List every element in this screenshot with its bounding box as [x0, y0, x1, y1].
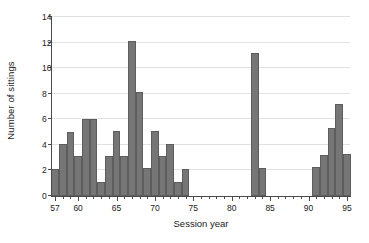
- x-axis-title: Session year: [52, 218, 350, 229]
- x-tick-label: 90: [304, 203, 313, 213]
- histogram-bar: [159, 156, 167, 196]
- y-tick-label: 14: [42, 12, 44, 22]
- histogram-bar: [105, 156, 113, 196]
- histogram-bar: [343, 154, 351, 196]
- histogram-bar: [74, 156, 82, 196]
- x-tick-label: 75: [189, 203, 198, 213]
- plot-area: 02468101214 576065707580859095: [52, 17, 350, 196]
- x-tick-label: 85: [265, 203, 274, 213]
- x-tick-label: 65: [112, 203, 121, 213]
- y-axis-line: [51, 17, 52, 196]
- histogram-bar: [335, 104, 343, 196]
- histogram-bar: [67, 132, 75, 196]
- histogram-bar: [136, 92, 144, 196]
- x-tick-label: 80: [227, 203, 236, 213]
- x-tick-label: 57: [50, 203, 59, 213]
- histogram-bar: [151, 131, 159, 196]
- y-tick-label: 0: [42, 191, 44, 201]
- x-axis-line: [51, 196, 351, 197]
- histogram-bar: [259, 168, 267, 196]
- histogram-bar: [328, 128, 336, 196]
- y-tick-label: 2: [42, 165, 44, 175]
- histogram-bar: [174, 182, 182, 196]
- histogram-bar: [59, 144, 67, 196]
- gridline: [52, 67, 350, 68]
- gridline: [52, 42, 350, 43]
- x-tick-label: 95: [342, 203, 351, 213]
- y-tick-label: 12: [42, 38, 44, 48]
- y-tick-label: 4: [42, 140, 44, 150]
- plot-inner: 02468101214 576065707580859095: [52, 17, 350, 196]
- histogram-bar: [120, 156, 128, 196]
- histogram-bar: [312, 167, 320, 196]
- histogram-bar: [251, 53, 259, 196]
- y-axis-title: Number of sittings: [0, 0, 20, 200]
- histogram-bar: [113, 131, 121, 196]
- histogram-bar: [82, 119, 90, 196]
- gridline: [52, 93, 350, 94]
- histogram-bar: [320, 155, 328, 196]
- histogram-bar: [97, 182, 105, 196]
- x-tick-label: 60: [73, 203, 82, 213]
- histogram-bar: [143, 168, 151, 196]
- histogram-bar: [182, 169, 190, 196]
- histogram-bar: [128, 41, 136, 196]
- y-tick-label: 10: [42, 63, 44, 73]
- y-axis-title-text: Number of sittings: [5, 61, 16, 139]
- y-tick-label: 8: [42, 89, 44, 99]
- gridline: [52, 16, 350, 17]
- histogram-bar: [90, 119, 98, 196]
- histogram-bar: [166, 144, 174, 196]
- histogram-figure: Number of sittings 02468101214 576065707…: [0, 0, 369, 243]
- x-tick-label: 70: [150, 203, 159, 213]
- y-tick-label: 6: [42, 114, 44, 124]
